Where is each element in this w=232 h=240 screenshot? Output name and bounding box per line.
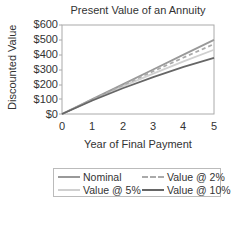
legend-item-5pct: Value @ 5% — [58, 184, 141, 196]
x-tick: 1 — [86, 120, 98, 132]
legend-swatch — [142, 176, 164, 178]
x-tick: 4 — [177, 120, 189, 132]
x-tick: 0 — [56, 120, 68, 132]
legend-swatch — [58, 176, 80, 178]
x-axis-label: Year of Final Payment — [62, 138, 214, 150]
chart-legend: Nominal Value @ 2% Value @ 5% Value @ 10… — [53, 168, 221, 197]
legend-item-nominal: Nominal — [58, 171, 122, 183]
series-line — [62, 58, 214, 114]
legend-swatch — [142, 189, 164, 191]
legend-label: Value @ 5% — [83, 184, 141, 196]
legend-label: Nominal — [83, 171, 122, 183]
legend-item-10pct: Value @ 10% — [142, 184, 231, 196]
legend-item-2pct: Value @ 2% — [142, 171, 225, 183]
legend-label: Value @ 10% — [167, 184, 231, 196]
x-tick: 5 — [208, 120, 220, 132]
x-tick: 2 — [117, 120, 129, 132]
legend-label: Value @ 2% — [167, 171, 225, 183]
legend-swatch — [58, 189, 80, 191]
x-tick: 3 — [147, 120, 159, 132]
series-line — [62, 40, 214, 114]
